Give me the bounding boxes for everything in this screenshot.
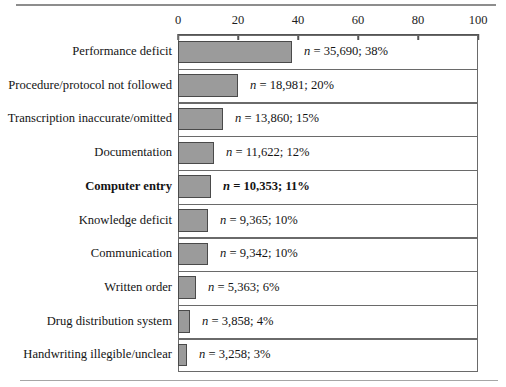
bar-value-text: = 9,365; 10% bbox=[226, 213, 297, 227]
x-axis-tick-label: 80 bbox=[412, 13, 425, 27]
bar-value-label: n = 9,365; 10% bbox=[220, 204, 298, 238]
bar-row: Written ordern = 5,363; 6% bbox=[0, 271, 506, 305]
bar bbox=[178, 209, 208, 232]
bar-value-label: n = 10,353; 11% bbox=[223, 170, 310, 204]
bar-chart-figure: 020406080100 Performance deficitn = 35,6… bbox=[0, 0, 506, 387]
category-label: Drug distribution system bbox=[47, 305, 172, 339]
bar-row: Transcription inaccurate/omittedn = 13,8… bbox=[0, 102, 506, 136]
x-axis-tick-label: 60 bbox=[352, 13, 365, 27]
bar-value-text: = 10,353; 11% bbox=[230, 179, 310, 193]
bar-row: Documentationn = 11,622; 12% bbox=[0, 136, 506, 170]
bar-value-text: = 3,858; 4% bbox=[208, 314, 273, 328]
bar-value-label: n = 3,858; 4% bbox=[202, 305, 273, 339]
bar-value-text: = 11,622; 12% bbox=[232, 145, 309, 159]
bar-value-text: = 5,363; 6% bbox=[214, 280, 279, 294]
bar-row: Procedure/protocol not followedn = 18,98… bbox=[0, 69, 506, 103]
category-label: Documentation bbox=[94, 136, 172, 170]
bar bbox=[178, 276, 196, 299]
category-label: Performance deficit bbox=[72, 35, 172, 69]
category-label: Knowledge deficit bbox=[79, 204, 172, 238]
category-label: Computer entry bbox=[85, 170, 172, 204]
bar-value-text: = 13,860; 15% bbox=[241, 111, 319, 125]
n-symbol: n bbox=[223, 179, 230, 193]
bar bbox=[178, 310, 190, 333]
bar-value-text: = 3,258; 3% bbox=[205, 347, 270, 361]
bar bbox=[178, 74, 238, 97]
bar bbox=[178, 243, 208, 266]
category-label: Handwriting illegible/unclear bbox=[23, 338, 172, 372]
bar-value-label: n = 11,622; 12% bbox=[226, 136, 310, 170]
row-separator bbox=[178, 136, 478, 137]
bar-rows: Performance deficitn = 35,690; 38%Proced… bbox=[0, 35, 506, 372]
bar-value-text: = 35,690; 38% bbox=[310, 44, 388, 58]
bar-row: Knowledge deficitn = 9,365; 10% bbox=[0, 204, 506, 238]
bar-row: Drug distribution systemn = 3,858; 4% bbox=[0, 305, 506, 339]
bar bbox=[178, 175, 211, 198]
category-label: Communication bbox=[91, 237, 172, 271]
bar-row: Performance deficitn = 35,690; 38% bbox=[0, 35, 506, 69]
bar-value-text: = 9,342; 10% bbox=[226, 246, 297, 260]
bar-row: Handwriting illegible/unclearn = 3,258; … bbox=[0, 338, 506, 372]
x-axis-tick-label: 0 bbox=[175, 13, 181, 27]
x-axis-tick-label: 40 bbox=[292, 13, 305, 27]
x-axis-tick-label: 100 bbox=[469, 13, 488, 27]
x-axis: 020406080100 bbox=[178, 14, 478, 36]
bar-value-label: n = 35,690; 38% bbox=[304, 35, 388, 69]
bar-row: Computer entryn = 10,353; 11% bbox=[0, 170, 506, 204]
category-label: Written order bbox=[104, 271, 172, 305]
bar bbox=[178, 344, 187, 367]
bar-value-label: n = 9,342; 10% bbox=[220, 237, 298, 271]
category-label: Procedure/protocol not followed bbox=[8, 69, 172, 103]
bar bbox=[178, 142, 214, 165]
bar-value-label: n = 18,981; 20% bbox=[250, 69, 334, 103]
category-label: Transcription inaccurate/omitted bbox=[8, 102, 172, 136]
x-axis-tick-label: 20 bbox=[232, 13, 245, 27]
bar-value-text: = 18,981; 20% bbox=[256, 78, 334, 92]
bar bbox=[178, 41, 292, 64]
bar-row: Communicationn = 9,342; 10% bbox=[0, 237, 506, 271]
bar-value-label: n = 13,860; 15% bbox=[235, 102, 319, 136]
row-separator bbox=[178, 102, 478, 103]
bar bbox=[178, 108, 223, 131]
bar-value-label: n = 3,258; 3% bbox=[199, 338, 270, 372]
bar-value-label: n = 5,363; 6% bbox=[208, 271, 279, 305]
